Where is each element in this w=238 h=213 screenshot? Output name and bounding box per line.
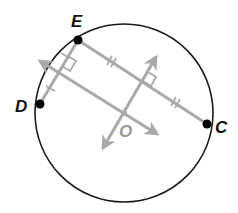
point-d — [36, 100, 45, 109]
label-e: E — [71, 12, 83, 31]
label-o: O — [119, 122, 132, 141]
diagram-canvas: E D C O — [0, 0, 238, 213]
point-c — [203, 120, 212, 129]
bisector-ed — [40, 61, 157, 134]
point-o — [121, 110, 127, 116]
point-e — [74, 36, 83, 45]
label-c: C — [215, 118, 228, 137]
label-d: D — [15, 97, 27, 116]
